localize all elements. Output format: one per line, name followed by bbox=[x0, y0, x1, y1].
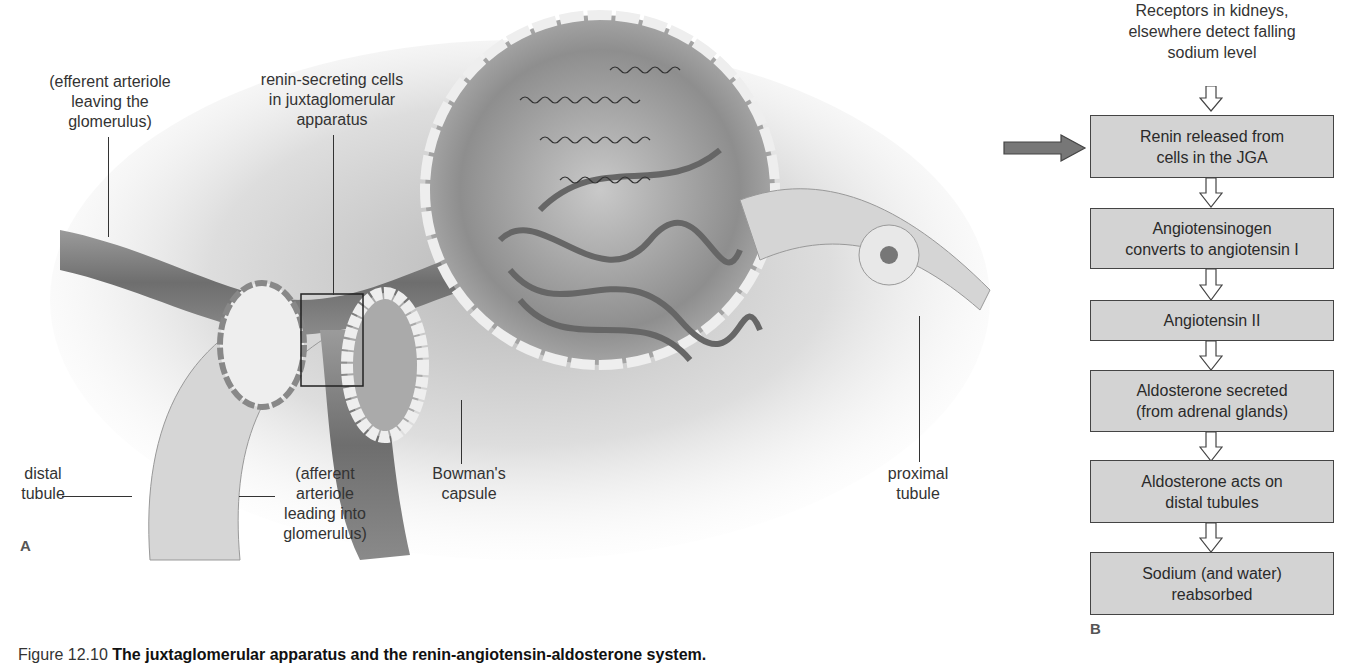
down-arrow-icon bbox=[1199, 269, 1223, 301]
panel-letter-a: A bbox=[20, 537, 31, 554]
bowmans-capsule-shape bbox=[425, 15, 775, 365]
flow-start-text: Receptors in kidneys, elsewhere detect f… bbox=[1070, 0, 1354, 63]
label-distal-tubule: distal tubule bbox=[18, 464, 68, 504]
label-proximal-tubule: proximal tubule bbox=[878, 464, 958, 504]
leader-distal-tubule bbox=[62, 496, 132, 497]
flow-step-angiotensin-i: Angiotensinogen converts to angiotensin … bbox=[1090, 208, 1334, 269]
leader-afferent-arteriole bbox=[239, 496, 275, 497]
down-arrow-icon bbox=[1199, 432, 1223, 462]
leader-renin-cells bbox=[333, 135, 334, 295]
tubule-cross-section-right bbox=[347, 293, 423, 437]
down-arrow-icon bbox=[1199, 178, 1223, 208]
figure-caption: Figure 12.10 The juxtaglomerular apparat… bbox=[18, 646, 706, 663]
flow-step-angiotensin-ii: Angiotensin II bbox=[1090, 300, 1334, 341]
tubule-cross-section-left bbox=[220, 283, 304, 407]
label-afferent-arteriole: (afferent arteriole leading into glomeru… bbox=[265, 464, 385, 544]
down-arrow-icon bbox=[1199, 86, 1223, 112]
leader-efferent-arteriole bbox=[108, 137, 109, 237]
flow-step-aldosterone-acts: Aldosterone acts on distal tubules bbox=[1090, 460, 1334, 523]
proximal-tubule-lumen bbox=[880, 246, 898, 264]
panel-letter-b: B bbox=[1090, 620, 1101, 637]
down-arrow-icon bbox=[1199, 341, 1223, 371]
label-renin-cells: renin-secreting cells in juxtaglomerular… bbox=[232, 70, 432, 130]
figure-number: Figure 12.10 bbox=[18, 646, 108, 663]
down-arrow-icon bbox=[1199, 523, 1223, 553]
flow-step-renin-released: Renin released from cells in the JGA bbox=[1090, 115, 1334, 178]
leader-proximal-tubule bbox=[919, 316, 920, 462]
figure-title: The juxtaglomerular apparatus and the re… bbox=[112, 646, 706, 663]
leader-bowmans-capsule bbox=[461, 400, 462, 464]
flow-step-aldosterone-secreted: Aldosterone secreted (from adrenal gland… bbox=[1090, 370, 1334, 432]
pointer-arrow-icon bbox=[1003, 134, 1087, 162]
flow-step-sodium-reabsorbed: Sodium (and water) reabsorbed bbox=[1090, 552, 1334, 615]
label-bowmans-capsule: Bowman's capsule bbox=[424, 464, 514, 504]
label-efferent-arteriole: (efferent arteriole leaving the glomerul… bbox=[30, 72, 190, 132]
